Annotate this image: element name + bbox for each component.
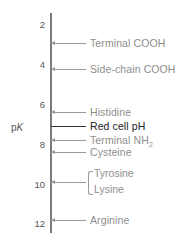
marker-line [51,152,86,153]
marker-line [51,112,86,113]
axis-title-italic: K [17,122,24,133]
arrow-left-icon [51,41,55,45]
marker-line [51,126,86,127]
marker-label-subscript: 2 [149,141,153,148]
tick-label-8: 8 [25,140,45,150]
marker-line [51,182,86,183]
arrow-left-icon [51,138,55,142]
marker-label: Side-chain COOH [90,63,176,75]
tick-label-6: 6 [25,100,45,110]
marker-label: Histidine [90,106,131,118]
pk-scale-diagram: 2 4 6 8 10 12 pK Terminal COOH Side-chai… [0,0,193,247]
tick-label-12: 12 [25,219,45,229]
marker-label: Terminal COOH [90,37,165,49]
axis-title-pk: pK [11,122,23,133]
tick-label-2: 2 [25,20,45,30]
marker-line [51,220,86,221]
marker-label-main: Terminal NH [90,134,149,146]
tick-label-4: 4 [25,60,45,70]
marker-label: Arginine [90,214,129,226]
group-bracket [88,171,93,195]
arrow-left-icon [51,110,55,114]
tick-label-10: 10 [25,180,45,190]
arrow-left-icon [51,67,55,71]
marker-line [51,140,86,141]
marker-label: Cysteine [90,146,132,158]
marker-line [51,43,86,44]
pk-axis-line [50,13,52,233]
arrow-left-icon [51,150,55,154]
marker-label: Red cell pH [90,120,145,132]
marker-label-tyrosine: Tyrosine [94,167,134,179]
arrow-left-icon [51,218,55,222]
marker-label-lysine: Lysine [94,183,124,195]
marker-line [51,69,86,70]
arrow-left-icon [51,180,55,184]
